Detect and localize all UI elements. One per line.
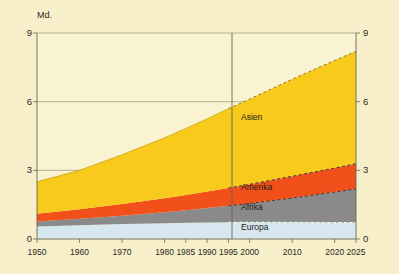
- x-tick-label-2025: 2025: [340, 247, 372, 257]
- y-tick-label-left-3: 3: [14, 164, 32, 175]
- chart-canvas: [0, 0, 399, 274]
- y-tick-label-right-0: 0: [363, 233, 368, 244]
- y-tick-label-left-6: 6: [14, 96, 32, 107]
- x-tick-label-2000: 2000: [234, 247, 266, 257]
- x-tick-label-1970: 1970: [106, 247, 138, 257]
- y-tick-label-right-9: 9: [363, 27, 368, 38]
- series-label-amerika: Amerika: [241, 182, 272, 192]
- x-tick-label-1960: 1960: [64, 247, 96, 257]
- series-label-europa: Europa: [241, 222, 268, 232]
- x-tick-label-1950: 1950: [21, 247, 53, 257]
- y-tick-label-right-3: 3: [363, 164, 368, 175]
- chart-root: Md. 0369 0369 19501960197019801985199019…: [0, 0, 399, 274]
- series-label-asien: Asien: [241, 112, 262, 122]
- y-tick-label-right-6: 6: [363, 96, 368, 107]
- stacked-areas: [37, 51, 356, 239]
- series-label-afrika: Afrika: [241, 202, 263, 212]
- y-tick-label-left-9: 9: [14, 27, 32, 38]
- y-tick-label-left-0: 0: [14, 233, 32, 244]
- x-tick-label-2010: 2010: [276, 247, 308, 257]
